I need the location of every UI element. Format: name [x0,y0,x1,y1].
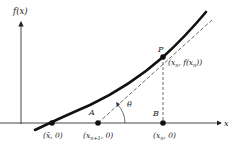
angle-label: θ [127,100,132,109]
root-point [49,120,55,126]
point-b-coords: (xn, 0) [153,131,176,141]
point-b-name: B [152,109,159,118]
point-a [95,120,101,126]
function-curve [35,12,206,130]
x-axis-label: x [224,119,229,128]
angle-arc [118,105,125,123]
point-p-name: P [157,45,164,54]
tangent-line [98,20,212,123]
root-coords: (x̄, 0) [43,131,63,140]
point-b [160,120,166,126]
point-p [160,54,166,60]
point-p-coords: (xn, f(xn)) [168,58,202,68]
newton-method-diagram: f(x) x P (xn, f(xn)) A B θ (x̄, 0) (xn+1… [0,0,230,142]
point-a-coords: (xn+1, 0) [83,131,113,141]
y-axis-label: f(x) [12,6,28,16]
point-a-name: A [88,108,95,117]
